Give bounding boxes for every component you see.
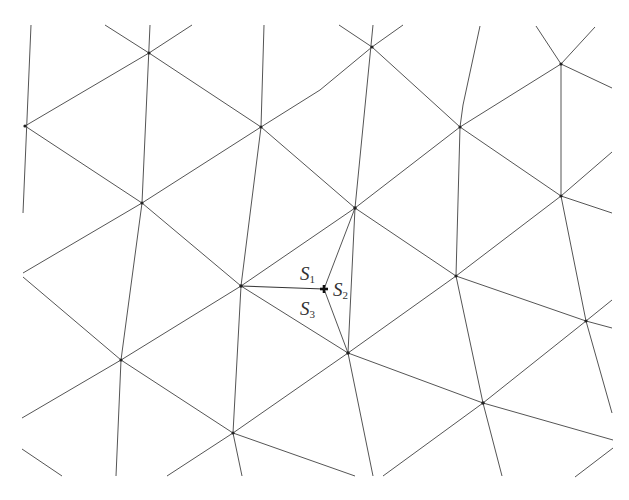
label-s1-base: S — [300, 263, 310, 284]
label-s2-subscript: 2 — [343, 289, 349, 301]
label-s2: S2 — [333, 280, 348, 301]
point-p-cross-marker — [320, 285, 328, 293]
label-s1-subscript: 1 — [310, 273, 316, 285]
label-s1: S1 — [300, 264, 315, 285]
label-s3-base: S — [300, 298, 310, 319]
label-s3-subscript: 3 — [310, 308, 316, 320]
triangular-mesh-diagram — [0, 0, 629, 500]
mesh-edges — [22, 25, 613, 477]
label-s3: S3 — [300, 299, 315, 320]
label-s2-base: S — [333, 279, 343, 300]
